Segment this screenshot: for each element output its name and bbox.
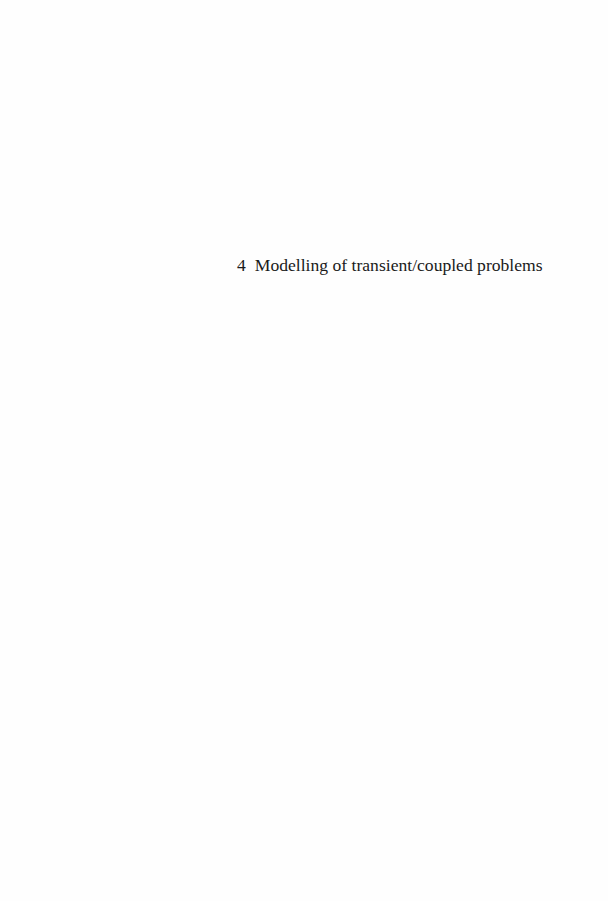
chapter-number: 4 [237,255,246,275]
document-page: 4Modelling of transient/coupled problems [0,0,608,901]
chapter-heading: 4Modelling of transient/coupled problems [237,254,543,276]
chapter-title: Modelling of transient/coupled problems [255,255,543,275]
